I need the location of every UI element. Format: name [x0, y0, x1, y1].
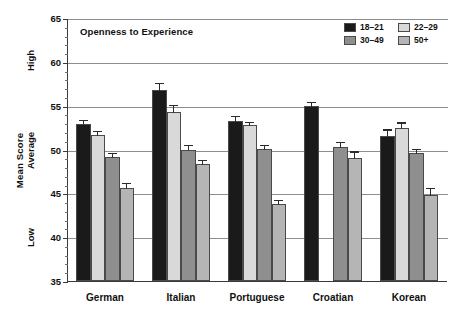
x-axis-group-label: Portuguese [219, 292, 295, 303]
y-axis-category-average: Average [25, 125, 36, 177]
y-axis-minor-tick [65, 229, 68, 230]
legend-swatch [344, 23, 356, 32]
bar [348, 158, 363, 281]
legend-item: 50+ [398, 35, 444, 45]
bar [272, 204, 287, 281]
plot-area [67, 19, 447, 282]
x-axis-group-label: Korean [371, 292, 447, 303]
y-axis-minor-tick [65, 133, 68, 134]
y-axis-minor-tick [65, 54, 68, 55]
bar [76, 124, 91, 281]
y-axis-minor-tick [65, 98, 68, 99]
y-axis-minor-tick [65, 124, 68, 125]
y-axis-category-low: Low [25, 212, 36, 264]
error-bar-cap [350, 151, 359, 152]
bar [91, 135, 106, 281]
bar [152, 90, 167, 281]
error-bar-cap [169, 105, 178, 106]
y-axis-major-tick [63, 19, 68, 20]
bar [228, 121, 243, 281]
y-axis-major-tick [63, 107, 68, 108]
legend-swatch [344, 36, 356, 45]
error-bar-cap [155, 83, 164, 84]
bar [120, 188, 135, 281]
legend-swatch [398, 23, 410, 32]
y-axis-minor-tick [65, 115, 68, 116]
y-axis-minor-tick [65, 203, 68, 204]
error-bar-cap [307, 102, 316, 103]
bar [380, 136, 395, 281]
y-axis-minor-tick [65, 80, 68, 81]
error-bar-cap [245, 122, 254, 123]
bar [243, 125, 258, 281]
y-axis-tick-label: 40 [39, 232, 61, 243]
y-axis-minor-tick [65, 159, 68, 160]
y-axis-minor-tick [65, 221, 68, 222]
error-bar-cap [397, 122, 406, 123]
y-axis-minor-tick [65, 142, 68, 143]
x-axis-group-label: Croatian [295, 292, 371, 303]
error-bar-cap [231, 116, 240, 117]
y-axis-category-high: High [25, 35, 36, 87]
legend-item: 22–29 [398, 22, 444, 32]
error-bar-cap [274, 200, 283, 201]
y-axis-minor-tick [65, 264, 68, 265]
error-bar-cap [79, 120, 88, 121]
bar [196, 164, 211, 281]
error-bar-cap [108, 153, 117, 154]
y-axis-minor-tick [65, 177, 68, 178]
y-axis-tick-label: 60 [39, 57, 61, 68]
error-bar-cap [93, 131, 102, 132]
y-axis-major-tick [63, 194, 68, 195]
y-axis-minor-tick [65, 28, 68, 29]
y-axis-major-tick [63, 282, 68, 283]
y-axis-minor-tick [65, 89, 68, 90]
bar [167, 112, 182, 281]
y-axis-minor-tick [65, 212, 68, 213]
y-axis-tick-label: 55 [39, 101, 61, 112]
gridline [68, 107, 448, 108]
bar [409, 153, 424, 281]
legend-label: 50+ [414, 35, 428, 45]
error-bar-cap [412, 149, 421, 150]
error-bar-cap [383, 129, 392, 130]
bar [257, 149, 272, 281]
y-axis-tick-label: 35 [39, 276, 61, 287]
y-axis-minor-tick [65, 72, 68, 73]
y-axis-title: Mean Score [14, 116, 25, 206]
x-axis-group-label: German [67, 292, 143, 303]
x-axis-group-label: Italian [143, 292, 219, 303]
y-axis-major-tick [63, 63, 68, 64]
legend-item: 18–21 [344, 22, 390, 32]
legend-label: 30–49 [360, 35, 384, 45]
chart-figure: Mean Score High Average Low 354045505560… [0, 0, 459, 322]
legend-label: 18–21 [360, 22, 384, 32]
bar [424, 195, 439, 281]
error-bar-cap [198, 160, 207, 161]
legend-swatch [398, 36, 410, 45]
bar [395, 128, 410, 281]
error-bar-cap [184, 145, 193, 146]
legend-label: 22–29 [414, 22, 438, 32]
y-axis-minor-tick [65, 186, 68, 187]
bar [304, 106, 319, 281]
bar [333, 147, 348, 281]
y-axis-minor-tick [65, 256, 68, 257]
y-axis-minor-tick [65, 37, 68, 38]
gridline [68, 63, 448, 64]
y-axis-tick-label: 50 [39, 145, 61, 156]
gridline [68, 19, 448, 20]
bar [181, 150, 196, 282]
error-bar-cap [260, 145, 269, 146]
y-axis-minor-tick [65, 168, 68, 169]
error-bar-cap [336, 142, 345, 143]
y-axis-major-tick [63, 151, 68, 152]
chart-legend: 18–2122–2930–4950+ [344, 22, 444, 45]
bar [105, 157, 120, 281]
y-axis-minor-tick [65, 273, 68, 274]
error-bar-cap [426, 188, 435, 189]
y-axis-minor-tick [65, 45, 68, 46]
y-axis-major-tick [63, 238, 68, 239]
legend-item: 30–49 [344, 35, 390, 45]
y-axis-tick-label: 45 [39, 188, 61, 199]
